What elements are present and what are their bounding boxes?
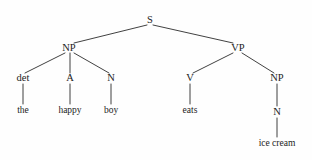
node-np-subject: NP — [62, 43, 75, 53]
leaf-ice-cream: ice cream — [259, 138, 296, 148]
node-verb: V — [186, 73, 194, 83]
leaf-boy: boy — [104, 105, 118, 115]
vp-to-verb — [193, 53, 233, 73]
tree-edges-layer — [0, 0, 312, 160]
np-subject-to-det — [25, 53, 65, 73]
vp-to-np-object — [242, 53, 274, 73]
node-s: S — [147, 15, 153, 25]
node-vp: VP — [231, 43, 244, 53]
node-det: det — [17, 73, 30, 83]
leaf-happy: happy — [58, 105, 81, 115]
node-adjective: A — [66, 73, 74, 83]
syntax-tree-figure: S NP VP det A N V NP N the happy boy eat… — [0, 0, 312, 160]
node-np-object: NP — [270, 73, 283, 83]
np-subject-to-noun — [74, 53, 109, 73]
node-noun-subject: N — [107, 73, 115, 83]
s-to-vp — [153, 25, 233, 43]
leaf-the: the — [17, 105, 29, 115]
node-noun-object: N — [273, 107, 281, 117]
s-to-np-subject — [74, 25, 147, 43]
leaf-eats: eats — [183, 105, 198, 115]
